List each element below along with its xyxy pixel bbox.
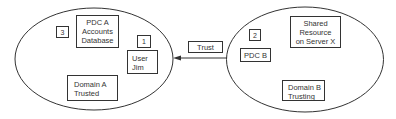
pdc-b-box: PDC B [240, 48, 271, 62]
trust-relationship-diagram: 3 PDC A Accounts Database 1 User Jim Dom… [0, 0, 396, 119]
pdc-a-line-3: Database [81, 36, 113, 45]
domain-b-line-2: Trusting [288, 92, 324, 101]
resource-line-3: on Server X [296, 37, 336, 46]
step-3-badge: 3 [56, 26, 69, 38]
trust-label-box: Trust [188, 41, 223, 53]
domain-b-label-box: Domain B Trusting [282, 80, 325, 101]
resource-line-2: Resource [299, 28, 331, 37]
pdc-a-box: PDC A Accounts Database [76, 15, 119, 48]
shared-resource-box: Shared Resource on Server X [290, 16, 341, 48]
domain-a-line-1: Domain A [74, 80, 117, 89]
domain-a-line-2: Trusted [74, 89, 117, 98]
user-jim-line-2: Jim [132, 63, 157, 72]
step-2-badge: 2 [249, 29, 261, 41]
resource-line-1: Shared [303, 19, 327, 28]
domain-b-line-1: Domain B [288, 83, 324, 92]
pdc-b-label: PDC B [244, 51, 267, 60]
trust-arrowhead-icon [173, 56, 181, 61]
step-1-label: 1 [142, 37, 146, 46]
pdc-a-line-2: Accounts [82, 27, 113, 36]
user-jim-line-1: User [132, 54, 157, 63]
domain-a-label-box: Domain A Trusted [67, 75, 118, 101]
step-1-badge: 1 [137, 35, 151, 48]
pdc-a-line-1: PDC A [86, 18, 109, 27]
trust-label: Trust [197, 43, 214, 52]
step-3-label: 3 [61, 28, 65, 37]
user-jim-box: User Jim [127, 50, 158, 74]
step-2-label: 2 [253, 31, 257, 40]
